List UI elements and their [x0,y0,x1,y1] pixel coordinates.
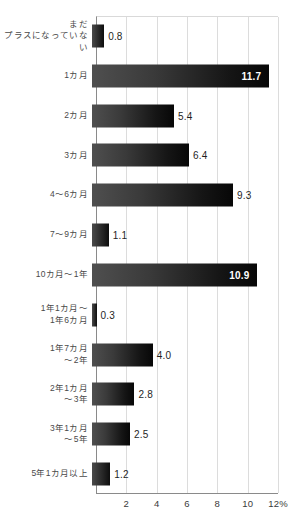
bar-row: 10カ月〜1年10.9 [0,255,290,295]
bar-value-label: 4.0 [157,349,172,360]
category-label: 2年1カ月 〜3年 [0,383,92,406]
bar-zone: 10.9 [92,255,290,295]
bar [92,104,174,127]
category-label: 1年7カ月 〜2年 [0,343,92,366]
bar-zone: 4.0 [92,335,290,375]
bar-value-label: 11.7 [241,70,261,81]
bar-value-label: 6.4 [193,150,208,161]
bar-row: 1年7カ月 〜2年4.0 [0,335,290,375]
bar-row: 2年1カ月 〜3年2.8 [0,375,290,415]
category-label: まだ プラスになっていない [0,19,92,54]
bar-zone: 1.1 [92,215,290,255]
bar-rows: まだ プラスになっていない0.81カ月11.72カ月5.43カ月6.44〜6カ月… [0,16,290,494]
bar-zone: 11.7 [92,56,290,96]
category-label: 4〜6カ月 [0,189,92,201]
bar [92,423,130,446]
bar-row: 2カ月5.4 [0,96,290,136]
bar-zone: 2.5 [92,414,290,454]
bar-value-label: 2.8 [138,389,153,400]
bar-row: 5年1カ月以上1.2 [0,454,290,494]
bar [92,303,97,326]
bar-zone: 1.2 [92,454,290,494]
bar [92,24,104,47]
horizontal-bar-chart: まだ プラスになっていない0.81カ月11.72カ月5.43カ月6.44〜6カ月… [0,0,290,527]
bar-row: 1年1カ月〜 1年6カ月0.3 [0,295,290,335]
category-label: 1カ月 [0,70,92,82]
bar-row: 3カ月6.4 [0,136,290,176]
bar-value-label: 0.8 [108,30,123,41]
x-tick-label: 12% [268,498,288,509]
category-label: 7〜9カ月 [0,229,92,241]
x-axis-ticks: 24681012% [96,496,278,516]
bar-zone: 0.8 [92,16,290,56]
bar-row: 1カ月11.7 [0,56,290,96]
bar-value-label: 5.4 [178,110,193,121]
x-tick-label: 10 [242,498,253,509]
bar-value-label: 9.3 [237,190,252,201]
x-tick-label: 6 [184,498,189,509]
bar [92,383,134,406]
bar-value-label: 1.2 [114,469,129,480]
x-tick-label: 4 [154,498,159,509]
bar-row: まだ プラスになっていない0.8 [0,16,290,56]
bar-value-label: 2.5 [134,429,149,440]
category-label: 2カ月 [0,110,92,122]
bar-row: 4〜6カ月9.3 [0,175,290,215]
category-label: 3カ月 [0,150,92,162]
bar-zone: 9.3 [92,175,290,215]
x-tick-label: 8 [215,498,220,509]
category-label: 1年1カ月〜 1年6カ月 [0,303,92,326]
bar-value-label: 1.1 [113,230,128,241]
bar [92,463,110,486]
bar-value-label: 0.3 [101,309,116,320]
category-label: 10カ月〜1年 [0,269,92,281]
bar [92,343,153,366]
bar-zone: 2.8 [92,375,290,415]
bar-zone: 0.3 [92,295,290,335]
category-label: 5年1カ月以上 [0,468,92,480]
bar-zone: 6.4 [92,136,290,176]
bar-zone: 5.4 [92,96,290,136]
bar-value-label: 10.9 [229,269,249,280]
bar [92,224,109,247]
bar [92,184,233,207]
x-tick-label: 2 [124,498,129,509]
bar-row: 7〜9カ月1.1 [0,215,290,255]
bar [92,144,189,167]
category-label: 3年1カ月 〜5年 [0,423,92,446]
bar-row: 3年1カ月 〜5年2.5 [0,414,290,454]
